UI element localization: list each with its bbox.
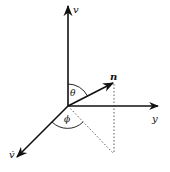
theta-label: θ <box>70 88 76 98</box>
n-vector-label: n <box>110 71 117 82</box>
phi-label: ϕ <box>64 114 70 124</box>
diagonal-axis <box>17 106 68 157</box>
diagonal-axis-label: v̇ <box>9 149 15 160</box>
vertical-axis-label: v <box>73 4 79 15</box>
horizontal-axis-label: y <box>151 113 158 124</box>
projection-diagonal-dotted <box>68 106 114 154</box>
coordinate-diagram: v y v̇ n θ ϕ <box>0 0 170 172</box>
